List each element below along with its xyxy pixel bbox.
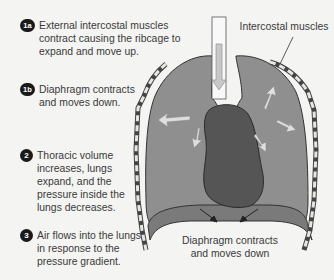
diaphragm-label: Diaphragm contracts and moves down — [174, 234, 286, 260]
step-3-text: Air flows into the lungs in response to … — [37, 229, 141, 268]
step-badge-1a: 1a — [20, 19, 35, 32]
intercostal-muscles-label: Intercostal muscles — [236, 20, 332, 33]
step-1a: 1a External intercostal muscles contract… — [0, 19, 181, 58]
step-badge-1b: 1b — [20, 83, 35, 96]
step-1b: 1b Diaphragm contracts and moves down. — [0, 83, 135, 109]
step-2-text: Thoracic volume increases, lungs expand,… — [37, 149, 125, 214]
step-2: 2 Thoracic volume increases, lungs expan… — [0, 149, 125, 214]
step-1b-text: Diaphragm contracts and moves down. — [39, 83, 135, 109]
step-badge-3: 3 — [20, 229, 33, 242]
intercostal-pointer — [280, 37, 293, 64]
step-1a-text: External intercostal muscles contract ca… — [39, 19, 181, 58]
step-3: 3 Air flows into the lungs in response t… — [0, 229, 141, 268]
step-badge-2: 2 — [20, 149, 33, 162]
